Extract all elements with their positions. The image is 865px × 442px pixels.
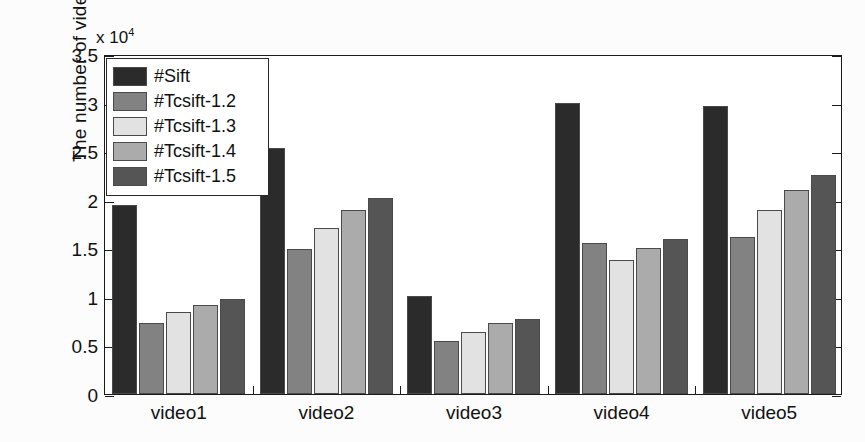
bar: [515, 319, 540, 394]
legend-swatch: [113, 92, 147, 111]
bar: [609, 260, 634, 394]
y-axis-tick-label: 3.5: [72, 45, 98, 67]
legend-item-label: #Sift: [154, 66, 190, 87]
legend-item: #Sift: [113, 64, 262, 89]
bar: [193, 305, 218, 394]
bar: [663, 239, 688, 394]
bar: [730, 237, 755, 394]
y-axis-multiplier-exponent: 4: [128, 26, 134, 38]
bar: [434, 341, 459, 394]
x-axis-tick-label: video3: [446, 402, 502, 424]
y-axis-tick-label: 1: [87, 288, 98, 310]
bar: [314, 228, 339, 394]
y-axis-tick-label: 2.5: [72, 142, 98, 164]
legend-swatch: [113, 117, 147, 136]
legend-item: #Tcsift-1.2: [113, 89, 262, 114]
y-axis-tick: [105, 396, 114, 397]
legend-item-label: #Tcsift-1.3: [154, 116, 236, 137]
bar: [112, 205, 137, 394]
bar-group: [695, 56, 843, 394]
bar: [636, 248, 661, 394]
bar: [220, 299, 245, 394]
legend-item: #Tcsift-1.3: [113, 114, 262, 139]
chart-legend: #Sift#Tcsift-1.2#Tcsift-1.3#Tcsift-1.4#T…: [106, 58, 269, 196]
y-axis-tick-label: 0.5: [72, 336, 98, 358]
bar: [139, 323, 164, 394]
bar: [757, 210, 782, 394]
legend-item-label: #Tcsift-1.4: [154, 141, 236, 162]
bar-group: [548, 56, 696, 394]
bar: [368, 198, 393, 394]
bar: [287, 249, 312, 394]
bar: [784, 190, 809, 394]
y-axis-multiplier: x 104: [96, 26, 134, 48]
legend-item-label: #Tcsift-1.5: [154, 166, 236, 187]
y-axis-tick-label: 0: [87, 385, 98, 407]
bar-group: [253, 56, 401, 394]
bar: [341, 210, 366, 394]
bar: [811, 175, 836, 394]
y-axis-multiplier-base: x 10: [96, 28, 128, 47]
legend-item-label: #Tcsift-1.2: [154, 91, 236, 112]
legend-item: #Tcsift-1.5: [113, 164, 262, 189]
y-axis-tick-label: 3: [87, 94, 98, 116]
legend-swatch: [113, 67, 147, 86]
bar: [582, 243, 607, 394]
bar: [703, 106, 728, 395]
bar: [488, 323, 513, 394]
bar: [555, 103, 580, 394]
bar: [407, 296, 432, 394]
x-axis-tick-label: video5: [741, 402, 797, 424]
legend-swatch: [113, 142, 147, 161]
x-axis-tick-label: video4: [594, 402, 650, 424]
legend-swatch: [113, 167, 147, 186]
bar-group: [400, 56, 548, 394]
legend-item: #Tcsift-1.4: [113, 139, 262, 164]
x-axis-tick-label: video2: [298, 402, 354, 424]
bar: [166, 312, 191, 394]
x-axis-tick-label: video1: [151, 402, 207, 424]
y-axis-tick-label: 2: [87, 191, 98, 213]
y-axis-tick-label: 1.5: [72, 239, 98, 261]
bar: [461, 332, 486, 394]
chart-figure: The number of video features x 104 00.51…: [0, 0, 865, 442]
y-axis-tick-right: [832, 396, 841, 397]
